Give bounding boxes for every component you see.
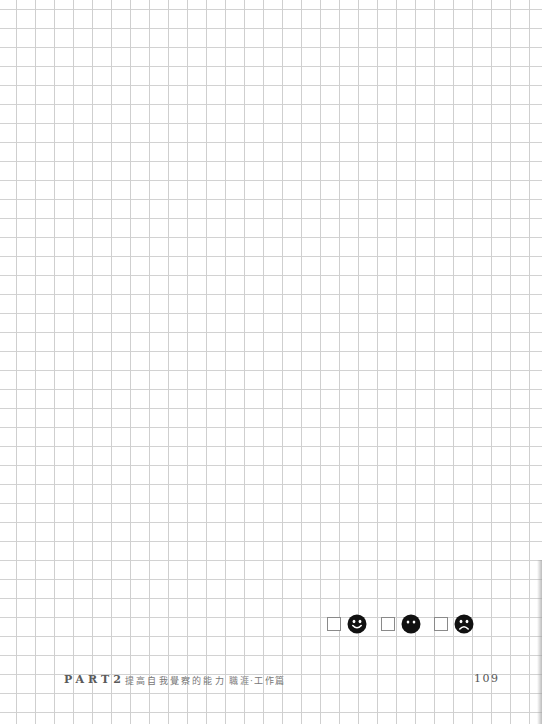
section-title: 職涯‧工作篇 — [229, 674, 286, 687]
sad-checkbox[interactable] — [434, 617, 448, 631]
neutral-face-icon — [401, 614, 421, 634]
page-edge-shadow — [537, 560, 542, 724]
page-number: 109 — [474, 672, 500, 685]
happy-face-icon — [347, 614, 367, 634]
part-label: PART2 — [64, 673, 125, 686]
neutral-checkbox[interactable] — [381, 617, 395, 631]
sad-face-icon — [454, 614, 474, 634]
chapter-title: 提高自我覺察的能力 — [125, 674, 226, 687]
happy-checkbox[interactable] — [327, 617, 341, 631]
